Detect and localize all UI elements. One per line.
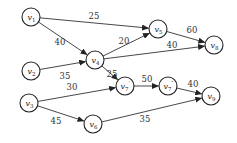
edge-arrow xyxy=(102,98,202,122)
edge-weight-label: 40 xyxy=(167,40,178,50)
edge-weight-label: 40 xyxy=(55,37,66,47)
edge-weight-label: 25 xyxy=(107,69,118,79)
node-v9: v9 xyxy=(202,87,220,105)
node-v5: v5 xyxy=(149,20,167,38)
edge-weight-label: 35 xyxy=(140,114,151,124)
node-v8: v8 xyxy=(205,36,223,54)
node-v6: v6 xyxy=(84,115,102,133)
edge-weight-label: 35 xyxy=(60,71,71,81)
node-v1: v1 xyxy=(22,8,40,26)
edge-weight-label: 40 xyxy=(188,79,199,89)
node-v4: v4 xyxy=(86,51,104,69)
node-v7pp: v7″ xyxy=(159,77,177,95)
edge-v2-v4 xyxy=(40,62,86,70)
node-v7p: v7′ xyxy=(116,77,134,95)
node-v2: v2 xyxy=(22,62,40,80)
edge-weight-label: 45 xyxy=(51,116,62,126)
edge-arrow xyxy=(40,62,86,70)
edge-weight-label: 25 xyxy=(89,11,100,21)
edge-weight-label: 50 xyxy=(142,74,153,84)
graph-canvas: 254035204025603045504035 v1v2v3v4v5v6v7′… xyxy=(0,0,237,143)
edge-weight-label: 60 xyxy=(187,25,198,35)
edge-v6-v9 xyxy=(102,98,202,122)
edge-weight-label: 20 xyxy=(119,36,130,46)
edge-weight-label: 30 xyxy=(67,82,78,92)
node-v3: v3 xyxy=(20,94,38,112)
